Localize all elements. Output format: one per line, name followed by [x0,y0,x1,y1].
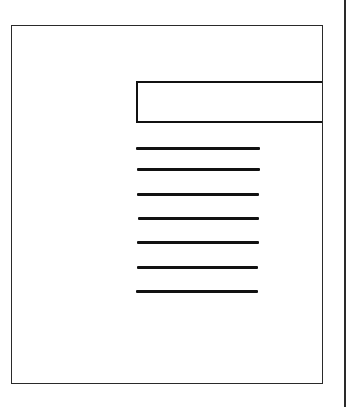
text-line [138,217,259,220]
text-line [137,266,258,269]
header-box [136,81,322,123]
text-line [136,290,258,293]
page-outline [11,25,323,384]
text-line [137,193,259,196]
text-line [136,147,260,150]
text-line [137,168,260,171]
edge-line [344,0,346,407]
text-line [137,241,259,244]
